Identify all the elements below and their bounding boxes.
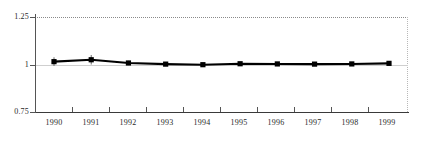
- data-point-1992: [126, 60, 131, 65]
- data-point-1999: [386, 61, 391, 66]
- data-point-1998: [349, 61, 354, 66]
- data-point-1995: [238, 61, 243, 66]
- series-layer: [0, 0, 424, 144]
- chart-container: 1.25 1 0.75 1990 1991 1992 1993 1994 199…: [0, 0, 424, 144]
- data-point-1991: [89, 57, 94, 62]
- data-point-1990: [51, 59, 56, 64]
- data-point-1994: [200, 62, 205, 67]
- marker-group: [51, 57, 391, 67]
- series-line-index: [54, 60, 389, 65]
- data-point-1993: [163, 62, 168, 67]
- data-point-1996: [275, 61, 280, 66]
- data-point-1997: [312, 62, 317, 67]
